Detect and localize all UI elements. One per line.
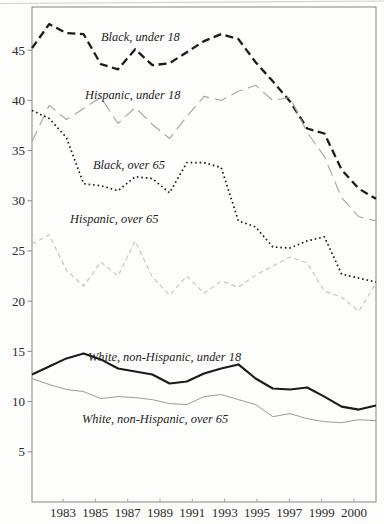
poverty-rate-line-chart: 5101520253035404519831985198719891991199…: [0, 0, 384, 524]
x-tick-label: 1989: [147, 505, 173, 520]
x-tick-label: 1983: [50, 505, 76, 520]
series-line-black-over-65: [32, 110, 376, 282]
series-line-hispanic-under-18: [32, 85, 376, 221]
series-label-black-over-65: Black, over 65: [93, 158, 165, 172]
x-tick-label: 1999: [309, 505, 335, 520]
series-line-black-under-18: [32, 24, 376, 199]
chart-canvas: 5101520253035404519831985198719891991199…: [0, 0, 384, 524]
y-tick-label: 35: [12, 143, 25, 158]
x-tick-label: 1991: [179, 505, 205, 520]
y-tick-label: 45: [12, 43, 25, 58]
y-tick-label: 15: [12, 344, 25, 359]
plot-border: [32, 7, 376, 502]
y-tick-label: 25: [12, 243, 25, 258]
y-tick-label: 20: [12, 294, 25, 309]
series-label-hispanic-over-65: Hispanic, over 65: [69, 212, 158, 226]
y-tick-label: 40: [12, 93, 25, 108]
series-line-hispanic-over-65: [32, 235, 376, 311]
y-tick-label: 10: [12, 394, 25, 409]
series-label-black-under-18: Black, under 18: [101, 30, 181, 44]
x-tick-label: 2000: [341, 505, 367, 520]
x-tick-label: 1987: [115, 505, 142, 520]
y-tick-label: 5: [19, 444, 26, 459]
series-label-white-non-hispanic-over-65: White, non-Hispanic, over 65: [82, 412, 228, 426]
series-label-hispanic-under-18: Hispanic, under 18: [84, 88, 181, 102]
x-tick-label: 1985: [82, 505, 108, 520]
x-tick-label: 1993: [212, 505, 238, 520]
y-tick-label: 30: [12, 193, 25, 208]
x-tick-label: 1997: [276, 505, 303, 520]
scan-artifact-line: [0, 1, 384, 4]
x-tick-label: 1995: [244, 505, 270, 520]
series-label-white-non-hispanic-under-18: White, non-Hispanic, under 18: [88, 350, 242, 364]
